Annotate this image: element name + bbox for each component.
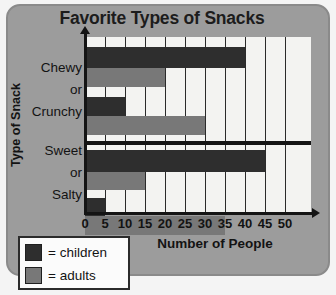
legend-label-adults: = adults xyxy=(48,268,96,283)
x-axis-line xyxy=(84,212,314,215)
chart-screenshot: Favorite Types of Snacks 0 5 10 15 20 xyxy=(0,0,336,295)
gridline-50 xyxy=(285,37,286,214)
xtick-0: 0 xyxy=(81,216,88,231)
xtick-10: 10 xyxy=(118,216,132,231)
legend-swatch-children-icon xyxy=(25,244,42,261)
bar-chewy-adults-20 xyxy=(85,68,165,87)
xtick-30: 30 xyxy=(198,216,212,231)
gridline-40 xyxy=(245,37,246,214)
plot-area xyxy=(85,37,311,214)
ycat-chewy: Chewy xyxy=(4,60,82,75)
x-axis-arrow-icon xyxy=(312,208,320,218)
legend-item-children: = children xyxy=(25,241,128,264)
gridline-45 xyxy=(265,37,266,214)
bar-sweet-children-45 xyxy=(85,150,265,172)
y-axis-categories: Chewy or Crunchy Sweet or Salty Type of … xyxy=(0,0,82,272)
xtick-35: 35 xyxy=(218,216,232,231)
bar-crunchy-adults-30 xyxy=(85,116,205,135)
group-separator xyxy=(85,141,311,145)
xtick-45: 45 xyxy=(258,216,272,231)
legend-label-children: = children xyxy=(48,245,107,260)
legend-item-adults: = adults xyxy=(25,264,128,287)
y-axis-line xyxy=(84,31,87,214)
bar-crunchy-children-10 xyxy=(85,97,125,116)
x-axis-label: Number of People xyxy=(120,236,310,251)
xtick-25: 25 xyxy=(178,216,192,231)
xtick-15: 15 xyxy=(138,216,152,231)
y-axis-label: Type of Snack xyxy=(9,78,23,172)
ycat-salty: Salty xyxy=(4,187,82,202)
xtick-20: 20 xyxy=(158,216,172,231)
legend-swatch-adults-icon xyxy=(25,267,42,284)
chart-legend: = children = adults xyxy=(18,236,130,290)
bar-sweet-adults-15 xyxy=(85,172,145,190)
bar-chewy-children-40 xyxy=(85,47,245,68)
xtick-5: 5 xyxy=(101,216,108,231)
xtick-50: 50 xyxy=(278,216,292,231)
xtick-40: 40 xyxy=(238,216,252,231)
